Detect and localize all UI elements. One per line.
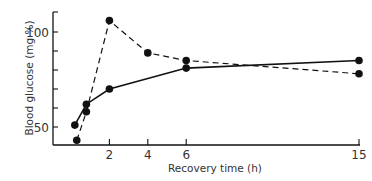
data-point-solid [355, 57, 363, 65]
series-line-dashed [77, 21, 359, 141]
data-point-dashed [144, 49, 152, 57]
data-point-dashed [182, 57, 190, 65]
data-point-dashed [355, 70, 363, 78]
line-chart: 5010024615 Blood glucose (mg %) Recovery… [0, 0, 372, 181]
y-tick-label: 50 [34, 121, 49, 135]
x-axis-title: Recovery time (h) [168, 162, 262, 174]
data-point-solid [71, 121, 79, 129]
x-tick-label: 6 [182, 148, 190, 162]
data-point-solid [106, 85, 114, 93]
x-tick-label: 15 [351, 148, 366, 162]
data-point-dashed [73, 137, 81, 145]
data-point-solid [182, 64, 190, 72]
data-point-dashed [83, 108, 91, 116]
y-axis-title: Blood glucose (mg %) [23, 20, 35, 135]
x-tick-label: 4 [144, 148, 152, 162]
x-tick-label: 2 [106, 148, 114, 162]
data-point-dashed [106, 17, 114, 25]
series-group [71, 17, 363, 144]
